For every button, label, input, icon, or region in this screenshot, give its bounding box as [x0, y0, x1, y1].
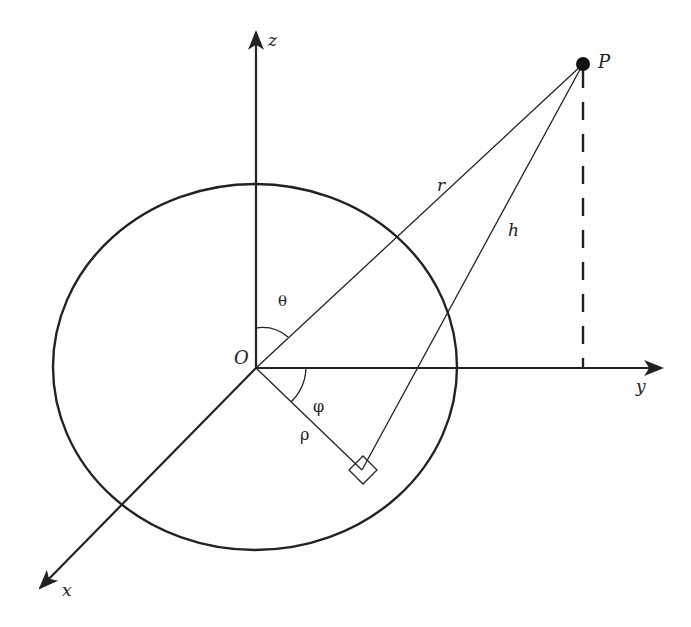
z-axis-label: z — [267, 30, 278, 50]
diagram-canvas: z y x O P r h ρ θ φ — [0, 0, 691, 627]
point-p-dot — [576, 57, 590, 71]
y-axis-label: y — [635, 376, 646, 396]
theta-label: θ — [278, 292, 287, 310]
segment-r — [256, 64, 583, 368]
segment-h — [362, 64, 583, 470]
phi-arc — [291, 368, 306, 402]
r-label: r — [437, 175, 446, 195]
point-p-label: P — [597, 51, 611, 72]
origin-label: O — [234, 347, 249, 368]
x-axis — [40, 368, 256, 588]
segment-rho — [256, 368, 362, 470]
rho-label: ρ — [300, 425, 309, 444]
right-angle-marker — [349, 456, 377, 484]
theta-arc — [256, 328, 288, 337]
x-axis-label: x — [62, 580, 72, 600]
h-label: h — [508, 220, 519, 240]
phi-label: φ — [313, 397, 324, 416]
